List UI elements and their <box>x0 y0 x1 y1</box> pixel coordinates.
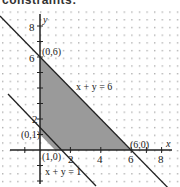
y-tick-8: 8 <box>29 21 35 33</box>
chart-plot: y x 8 6 2 2 4 6 8 (0,6) (6,0) (0,1) (1,0… <box>0 0 180 187</box>
y-tick-6: 6 <box>29 52 35 64</box>
y-axis-label: y <box>42 14 48 25</box>
x-tick-2: 2 <box>68 153 74 165</box>
y-tick-2: 2 <box>32 113 38 125</box>
line-label-x-plus-y-1: x + y = 1 <box>45 166 81 177</box>
point-label-1-0: (1,0) <box>42 151 61 163</box>
x-axis-label: x <box>165 138 171 149</box>
line-label-x-plus-y-6: x + y = 6 <box>76 81 112 92</box>
point-label-6-0: (6,0) <box>130 139 149 151</box>
point-label-0-1: (0,1) <box>21 129 40 141</box>
x-tick-8: 8 <box>158 153 164 165</box>
point-label-0-6: (0,6) <box>42 46 61 58</box>
x-tick-4: 4 <box>97 153 103 165</box>
x-tick-6: 6 <box>128 153 134 165</box>
